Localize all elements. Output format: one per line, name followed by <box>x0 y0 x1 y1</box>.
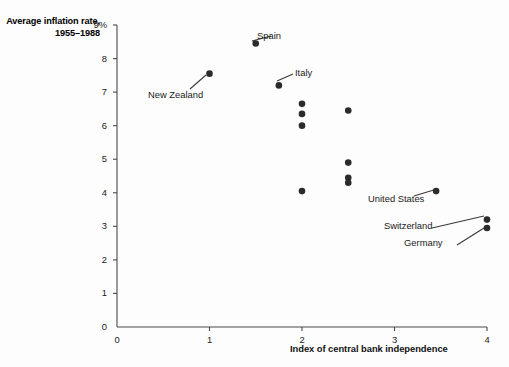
data-point <box>206 70 213 77</box>
x-axis-title: Index of central bank independence <box>290 343 448 354</box>
data-point <box>484 216 491 223</box>
y-tick-label: 1 <box>81 287 107 298</box>
annotation-leader-lines <box>190 36 484 245</box>
scatter-chart-figure: Average inflation rate, 1955–1988 012345… <box>0 0 509 367</box>
data-point <box>299 188 306 195</box>
y-tick-label: 3 <box>81 220 107 231</box>
y-tick-label: 9% <box>81 19 107 30</box>
point-label-italy: Italy <box>295 67 312 78</box>
plot-canvas <box>0 0 509 367</box>
data-point <box>433 188 440 195</box>
data-point <box>345 179 352 186</box>
y-tick-label: 6 <box>81 120 107 131</box>
data-point <box>484 225 491 232</box>
data-point <box>299 111 306 118</box>
x-tick-label: 0 <box>107 334 127 345</box>
y-tick-label: 7 <box>81 86 107 97</box>
leader-line <box>432 216 484 228</box>
leader-line <box>190 75 206 89</box>
y-tick-label: 5 <box>81 153 107 164</box>
leader-line <box>277 74 293 81</box>
data-point <box>345 159 352 166</box>
data-point <box>299 122 306 129</box>
x-tick-label: 1 <box>200 334 220 345</box>
data-point <box>252 40 259 47</box>
point-label-new-zealand: New Zealand <box>148 89 203 100</box>
y-tick-label: 0 <box>81 321 107 332</box>
point-label-germany: Germany <box>404 237 443 248</box>
y-tick-label: 8 <box>81 53 107 64</box>
point-label-spain: Spain <box>257 30 281 41</box>
data-point <box>299 101 306 108</box>
data-point <box>276 82 283 89</box>
y-tick-label: 4 <box>81 187 107 198</box>
x-tick-marks <box>210 327 488 331</box>
x-tick-label: 4 <box>477 334 497 345</box>
data-points <box>206 40 490 231</box>
point-label-switzerland: Switzerland <box>384 220 432 231</box>
leader-line <box>457 228 484 245</box>
y-tick-marks <box>113 25 117 293</box>
y-tick-label: 2 <box>81 254 107 265</box>
point-label-united-states: United States <box>368 193 424 204</box>
data-point <box>345 107 352 114</box>
